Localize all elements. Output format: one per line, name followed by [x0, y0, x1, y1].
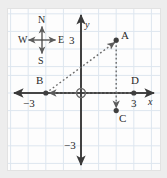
plot-canvas — [8, 9, 160, 170]
point-label-b: B — [36, 75, 43, 86]
compass-label-west: W — [18, 35, 27, 45]
point-a — [114, 38, 119, 43]
compass-label-south: S — [38, 56, 44, 66]
coordinate-plane: A B C D 3 −3 −3 3 x y N W E S — [8, 9, 160, 170]
y-tick-3: 3 — [69, 35, 75, 46]
point-label-c: C — [119, 113, 126, 124]
compass-label-east: E — [58, 35, 64, 45]
compass-label-north: N — [38, 15, 45, 25]
point-label-d: D — [131, 75, 139, 86]
point-label-a: A — [121, 30, 129, 41]
point-d — [131, 90, 136, 95]
point-b — [43, 90, 48, 95]
x-tick-3: 3 — [131, 98, 137, 109]
axis-label-y: y — [85, 20, 89, 30]
x-tick-neg3: −3 — [23, 98, 35, 109]
figure-stage: A B C D 3 −3 −3 3 x y N W E S — [0, 0, 167, 178]
axis-label-x: x — [148, 97, 152, 107]
y-tick-neg3: −3 — [64, 140, 76, 151]
